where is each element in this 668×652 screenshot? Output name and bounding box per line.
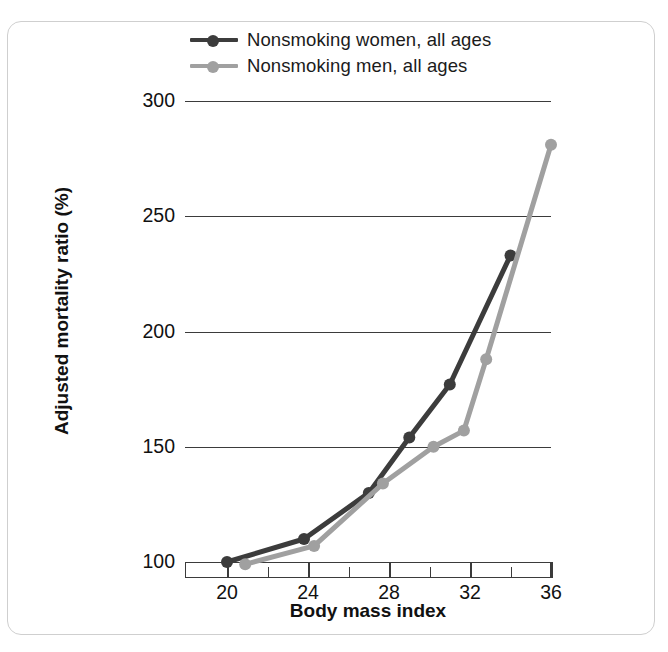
series-men [239, 139, 557, 571]
data-point [403, 432, 415, 444]
data-point [428, 441, 440, 453]
series-line [227, 255, 511, 562]
data-point [377, 478, 389, 490]
chart-plot-area: Adjusted mortality ratio (%) Body mass i… [0, 0, 668, 652]
data-point [221, 556, 233, 568]
data-point [444, 379, 456, 391]
data-series-layer [0, 0, 668, 652]
data-point [458, 425, 470, 437]
data-point [239, 558, 251, 570]
data-point [298, 533, 310, 545]
series-line [245, 145, 551, 565]
data-point [545, 139, 557, 151]
data-point [480, 353, 492, 365]
data-point [308, 540, 320, 552]
